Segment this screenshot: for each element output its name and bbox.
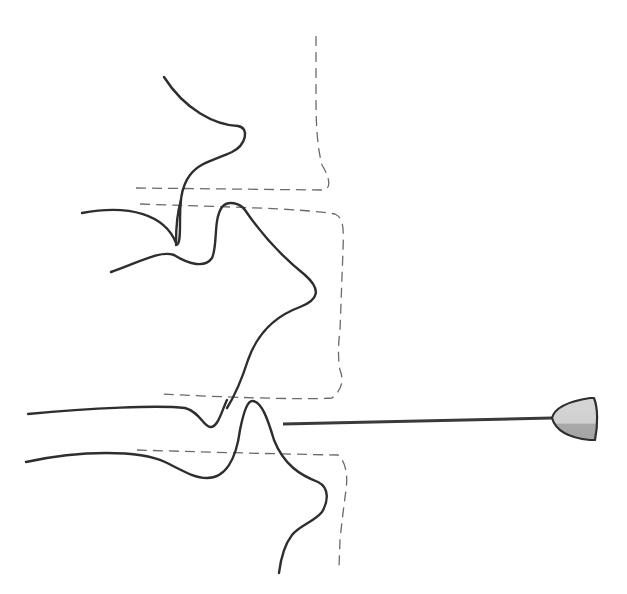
diagram-canvas [0, 0, 627, 594]
middle-contour [82, 200, 181, 243]
dashed-outline-lower [137, 450, 347, 568]
lower-left-contour-peak [26, 401, 327, 573]
probe-tip [552, 398, 597, 440]
dashed-outline-upper [135, 36, 329, 190]
lower-left-contour-top [28, 400, 227, 427]
middle-contour-lower-loop [111, 203, 316, 408]
probe-rod [283, 418, 552, 424]
diagram-svg [0, 0, 627, 594]
